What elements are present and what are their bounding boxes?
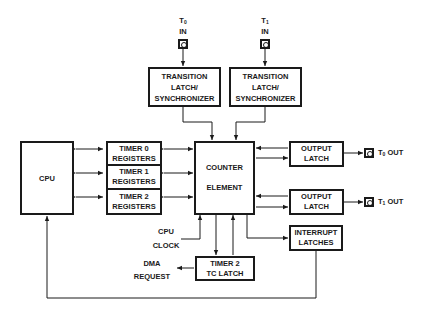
output-latch-0: OUTPUT LATCH <box>289 141 344 167</box>
timer-2-registers: TIMER 2 REGISTERS <box>106 188 162 215</box>
cpu-clock-label: CPU CLOCK <box>152 225 180 253</box>
cpu-block: CPU <box>20 141 74 215</box>
t1-out-label: T1 OUT <box>378 197 403 208</box>
output-latch-1: OUTPUT LATCH <box>289 189 344 215</box>
timer-2-tc-latch: TIMER 2 TC LATCH <box>195 256 255 281</box>
dma-request-label: DMA REQUEST <box>132 257 172 283</box>
transition-latch-synchronizer-0: TRANSITION LATCH/ SYNCHRONIZER <box>148 67 221 107</box>
t1-in-label: T1 IN <box>254 16 276 37</box>
t0-out-pin-icon <box>364 148 374 158</box>
t1-in-pin-icon <box>260 39 270 49</box>
timer-0-registers: TIMER 0 REGISTERS <box>106 141 162 166</box>
t0-in-pin-icon <box>178 39 188 49</box>
counter-element: COUNTER ELEMENT <box>194 141 255 215</box>
t0-in-label: T0 IN <box>172 16 194 37</box>
t0-out-label: T0 OUT <box>378 148 403 159</box>
interrupt-latches: INTERRUPT LATCHES <box>289 225 343 251</box>
timer-1-registers: TIMER 1 REGISTERS <box>106 164 162 190</box>
t1-out-pin-icon <box>364 197 374 207</box>
transition-latch-synchronizer-1: TRANSITION LATCH/ SYNCHRONIZER <box>229 67 302 107</box>
